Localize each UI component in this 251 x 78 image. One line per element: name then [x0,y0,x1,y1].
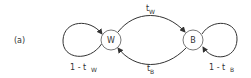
node-w: W [101,30,121,50]
label-sub: W [91,66,97,73]
edge-b-to-w [118,48,186,65]
label-sub: B [150,68,154,75]
label-self-loop-b: 1 - t B [209,63,234,73]
panel-label: (a) [14,36,25,45]
node-w-label: W [107,36,115,45]
self-loop-b-edge [202,23,237,57]
self-loop-w-edge [63,23,102,56]
label-main: 1 - t [70,63,86,72]
node-b: B [183,30,203,50]
state-transition-diagram: (a) W B 1 - t W t W t B 1 - t B [0,0,251,78]
label-sub: B [230,66,234,73]
label-sub: W [149,8,155,15]
label-main: 1 - t [209,63,225,72]
label-b-to-w: t B [147,64,154,75]
label-self-loop-w: 1 - t W [70,63,97,73]
label-w-to-b: t W [146,4,155,15]
edge-w-to-b [118,16,185,33]
node-b-label: B [190,36,196,45]
